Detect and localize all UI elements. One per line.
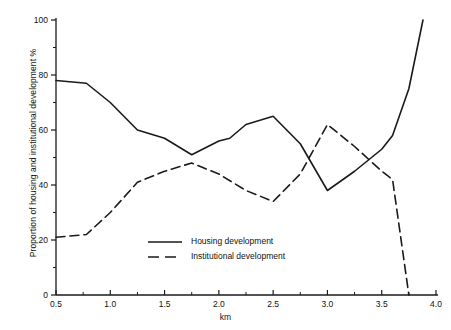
y-tick-label: 100 [12,15,48,25]
legend-swatch-dashed-icon [148,252,182,262]
x-tick-label: 2.5 [267,299,279,309]
series-line-institutional [56,125,409,296]
y-axis-title: Proportion of housing and institutional … [28,28,38,278]
x-tick-label: 4.0 [430,299,442,309]
x-tick-label: 3.0 [322,299,334,309]
x-axis-title: km [0,312,451,322]
chart-legend: Housing development Institutional develo… [148,234,285,264]
x-tick-label: 0.5 [50,299,62,309]
chart-container: 020406080100 0.51.01.52.02.53.03.54.0 Pr… [0,0,451,330]
x-tick-label: 1.5 [159,299,171,309]
legend-item-institutional: Institutional development [148,249,285,264]
legend-swatch-solid-icon [148,237,182,247]
series-line-housing [56,20,423,191]
legend-label-housing: Housing development [191,234,273,249]
x-tick-label: 1.0 [104,299,116,309]
chart-plot-area [0,0,451,330]
y-tick-label: 0 [12,290,48,300]
legend-label-institutional: Institutional development [191,249,285,264]
x-tick-label: 3.5 [376,299,388,309]
x-tick-label: 2.0 [213,299,225,309]
legend-item-housing: Housing development [148,234,285,249]
